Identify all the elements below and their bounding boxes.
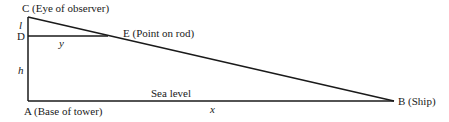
label-A: A (Base of tower) xyxy=(24,106,103,117)
label-C: C (Eye of observer) xyxy=(22,3,109,14)
label-y: y xyxy=(59,38,64,49)
label-x: x xyxy=(210,104,215,115)
label-h: h xyxy=(18,65,24,76)
label-E: E (Point on rod) xyxy=(123,28,194,39)
label-sea-level: Sea level xyxy=(151,88,191,99)
geometry xyxy=(0,0,449,122)
diagram-canvas: C (Eye of observer) l D y E (Point on ro… xyxy=(0,0,449,122)
label-D: D xyxy=(17,31,25,42)
sightline-CB xyxy=(28,17,394,101)
label-B: B (Ship) xyxy=(398,96,436,107)
